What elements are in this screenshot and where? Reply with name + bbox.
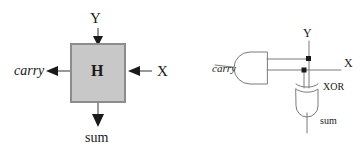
xor-extra-arc [296,84,318,87]
gate-input-x-label: X [344,57,353,69]
block-output-carry-label: carry [14,64,44,78]
diagram-canvas: Y X carry sum H carry Y X XOR sum [0,0,363,154]
block-input-y-label: Y [90,11,101,26]
xor-gate-label: XOR [323,82,344,92]
junction-dot-x [302,68,307,73]
arrowhead-sum-output [92,114,104,127]
gate-output-sum-label: sum [320,116,337,126]
block-input-x-label: X [157,64,168,79]
block-box-label: H [91,63,103,79]
gate-input-y-label: Y [303,27,312,39]
arrowhead-carry-output [46,66,58,76]
junction-dot-y [306,56,311,61]
block-output-sum-label: sum [85,131,108,145]
arrowhead-x-input [128,66,140,76]
and-gate-body [234,52,267,84]
diagram-vector-layer [0,0,363,154]
gate-output-carry-label: carry [212,63,236,74]
